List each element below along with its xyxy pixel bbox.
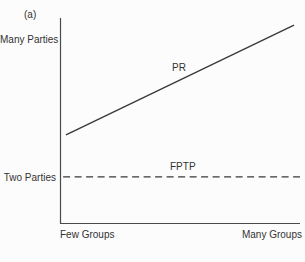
x-axis-left-label: Few Groups (60, 229, 114, 241)
figure-panel-a: (a) Many Parties Two Parties Few Groups … (0, 0, 305, 262)
series-label-pr: PR (172, 62, 186, 74)
y-axis-bottom-label: Two Parties (0, 172, 56, 184)
series-line-pr (66, 25, 294, 135)
panel-label: (a) (24, 9, 36, 21)
y-axis-top-label: Many Parties (0, 34, 54, 46)
x-axis-right-label: Many Groups (242, 229, 302, 241)
series-label-fptp: FPTP (170, 161, 196, 173)
